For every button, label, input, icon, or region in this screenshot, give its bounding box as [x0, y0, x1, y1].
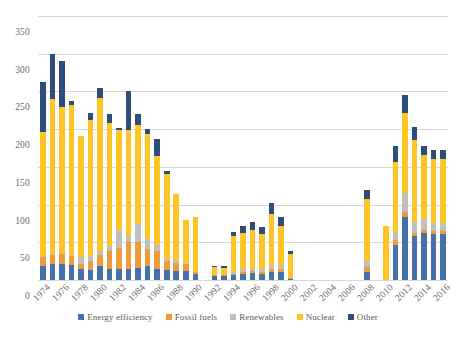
- legend-item-other[interactable]: Other: [348, 312, 378, 322]
- bar-segment-nuclear[interactable]: [269, 214, 275, 265]
- bar-group-2008[interactable]: [364, 190, 370, 280]
- bar-segment-fossil-fuels[interactable]: [183, 264, 189, 271]
- bar-segment-nuclear[interactable]: [193, 217, 199, 271]
- bar-segment-other[interactable]: [88, 113, 94, 120]
- bar-group-2014[interactable]: [421, 146, 427, 280]
- bar-group-1997[interactable]: [259, 227, 265, 280]
- bar-segment-other[interactable]: [59, 61, 65, 106]
- bar-group-1974[interactable]: [40, 82, 46, 280]
- bar-segment-renewables[interactable]: [393, 232, 399, 240]
- bar-group-2013[interactable]: [412, 127, 418, 280]
- bar-segment-other[interactable]: [269, 203, 275, 214]
- bar-segment-fossil-fuels[interactable]: [69, 256, 75, 265]
- bar-group-1984[interactable]: [135, 114, 141, 280]
- bar-segment-nuclear[interactable]: [240, 233, 246, 270]
- bar-segment-nuclear[interactable]: [231, 236, 237, 272]
- bar-segment-other[interactable]: [135, 114, 141, 125]
- legend-item-fossil-fuels[interactable]: Fossil fuels: [166, 312, 217, 322]
- bar-segment-renewables[interactable]: [440, 223, 446, 231]
- bar-segment-nuclear[interactable]: [288, 254, 294, 277]
- bar-segment-other[interactable]: [40, 82, 46, 133]
- bar-segment-energy-efficiency[interactable]: [278, 272, 284, 280]
- bar-segment-energy-efficiency[interactable]: [78, 269, 84, 280]
- bar-segment-energy-efficiency[interactable]: [402, 217, 408, 280]
- bar-segment-energy-efficiency[interactable]: [135, 268, 141, 280]
- bar-segment-nuclear[interactable]: [88, 120, 94, 256]
- bar-group-1998[interactable]: [269, 203, 275, 280]
- bar-group-1999[interactable]: [278, 217, 284, 280]
- bar-segment-renewables[interactable]: [402, 193, 408, 213]
- bar-group-1976[interactable]: [59, 61, 65, 280]
- bar-group-1994[interactable]: [231, 232, 237, 280]
- bar-segment-nuclear[interactable]: [421, 155, 427, 219]
- bar-segment-fossil-fuels[interactable]: [154, 251, 160, 269]
- bar-group-1983[interactable]: [126, 91, 132, 280]
- bar-segment-nuclear[interactable]: [393, 162, 399, 231]
- bar-segment-nuclear[interactable]: [431, 159, 437, 223]
- bar-segment-other[interactable]: [50, 54, 56, 99]
- bar-group-1981[interactable]: [107, 114, 113, 280]
- bar-segment-energy-efficiency[interactable]: [393, 245, 399, 280]
- bar-segment-nuclear[interactable]: [59, 107, 65, 253]
- bar-segment-energy-efficiency[interactable]: [412, 236, 418, 280]
- bar-segment-other[interactable]: [259, 227, 265, 234]
- bar-segment-nuclear[interactable]: [278, 226, 284, 265]
- bar-segment-nuclear[interactable]: [440, 159, 446, 223]
- bar-segment-other[interactable]: [402, 95, 408, 113]
- bar-segment-other[interactable]: [250, 222, 256, 230]
- bar-segment-other[interactable]: [440, 150, 446, 159]
- bar-segment-nuclear[interactable]: [116, 130, 122, 230]
- bar-segment-energy-efficiency[interactable]: [421, 233, 427, 280]
- bar-segment-nuclear[interactable]: [97, 98, 103, 251]
- bar-segment-fossil-fuels[interactable]: [173, 263, 179, 271]
- bar-segment-nuclear[interactable]: [78, 136, 84, 257]
- bar-group-1980[interactable]: [97, 88, 103, 280]
- bar-segment-fossil-fuels[interactable]: [97, 255, 103, 266]
- bar-segment-energy-efficiency[interactable]: [164, 270, 170, 280]
- bar-segment-nuclear[interactable]: [145, 134, 151, 239]
- bar-segment-fossil-fuels[interactable]: [50, 255, 56, 264]
- bar-segment-energy-efficiency[interactable]: [88, 270, 94, 280]
- bar-segment-nuclear[interactable]: [107, 123, 113, 246]
- bar-group-2012[interactable]: [402, 95, 408, 280]
- bar-segment-fossil-fuels[interactable]: [59, 254, 65, 265]
- bar-segment-energy-efficiency[interactable]: [269, 272, 275, 280]
- bar-group-2000[interactable]: [288, 251, 294, 280]
- bar-segment-renewables[interactable]: [421, 219, 427, 230]
- bar-segment-fossil-fuels[interactable]: [107, 251, 113, 268]
- bar-segment-other[interactable]: [107, 114, 113, 123]
- bar-group-1987[interactable]: [164, 171, 170, 280]
- bar-segment-energy-efficiency[interactable]: [183, 271, 189, 280]
- bar-segment-other[interactable]: [364, 190, 370, 199]
- bar-segment-other[interactable]: [97, 88, 103, 97]
- bar-segment-nuclear[interactable]: [135, 125, 141, 225]
- bar-segment-energy-efficiency[interactable]: [97, 266, 103, 280]
- bar-segment-renewables[interactable]: [135, 224, 141, 241]
- bar-segment-energy-efficiency[interactable]: [116, 269, 122, 280]
- bar-segment-nuclear[interactable]: [364, 199, 370, 262]
- bar-group-2011[interactable]: [393, 146, 399, 280]
- bar-group-1993[interactable]: [221, 266, 227, 280]
- bar-segment-energy-efficiency[interactable]: [126, 269, 132, 280]
- bar-group-1995[interactable]: [240, 226, 246, 280]
- bar-segment-fossil-fuels[interactable]: [88, 261, 94, 270]
- bar-group-1990[interactable]: [193, 217, 199, 280]
- bar-group-1979[interactable]: [88, 113, 94, 280]
- bar-segment-fossil-fuels[interactable]: [40, 257, 46, 266]
- bar-segment-energy-efficiency[interactable]: [250, 273, 256, 280]
- bar-segment-other[interactable]: [154, 139, 160, 156]
- bar-group-2016[interactable]: [440, 150, 446, 280]
- bar-segment-energy-efficiency[interactable]: [59, 264, 65, 280]
- bar-group-1977[interactable]: [69, 101, 75, 280]
- bar-segment-energy-efficiency[interactable]: [431, 234, 437, 280]
- bar-segment-energy-efficiency[interactable]: [145, 266, 151, 280]
- bar-segment-fossil-fuels[interactable]: [126, 242, 132, 268]
- bar-segment-energy-efficiency[interactable]: [69, 265, 75, 280]
- bar-segment-nuclear[interactable]: [69, 105, 75, 255]
- bar-segment-nuclear[interactable]: [402, 113, 408, 192]
- bar-segment-nuclear[interactable]: [50, 99, 56, 254]
- bar-segment-nuclear[interactable]: [173, 194, 179, 260]
- bar-segment-nuclear[interactable]: [40, 132, 46, 256]
- bar-segment-nuclear[interactable]: [164, 174, 170, 258]
- bar-group-1985[interactable]: [145, 129, 151, 280]
